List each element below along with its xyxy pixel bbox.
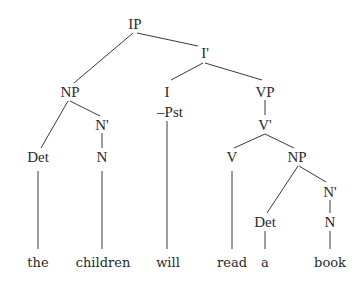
leaf-word: a bbox=[261, 256, 269, 269]
edge-ip-ibar bbox=[137, 33, 198, 46]
node-vp: VP bbox=[255, 85, 274, 100]
leaf-word: read bbox=[217, 256, 247, 269]
node-n-bar-object: N' bbox=[323, 185, 337, 200]
node-det-subject: Det bbox=[27, 150, 49, 165]
node-v-bar: V' bbox=[258, 118, 272, 133]
node-n-object: N bbox=[325, 215, 336, 230]
node-np-object: NP bbox=[287, 150, 306, 165]
edge-ip-np1 bbox=[74, 33, 133, 83]
node-v: V bbox=[227, 150, 238, 165]
edge-vbar-np2 bbox=[265, 134, 294, 148]
node-n-bar-subject: N' bbox=[95, 118, 109, 133]
leaf-word: children bbox=[76, 256, 131, 269]
node-tense-feature: –Pst bbox=[157, 105, 183, 120]
leaf-word: book bbox=[314, 256, 346, 269]
edge-np2-nbar2 bbox=[299, 166, 326, 182]
node-ip: IP bbox=[128, 17, 141, 32]
edge-vbar-v bbox=[234, 134, 265, 148]
node-n-subject: N bbox=[97, 150, 108, 165]
edge-np2-det2 bbox=[267, 166, 298, 213]
leaf-word: the bbox=[27, 256, 48, 269]
edge-ibar-vp bbox=[205, 63, 262, 80]
edge-ibar-i bbox=[171, 63, 203, 80]
tree-edges bbox=[0, 0, 364, 284]
syntax-tree-diagram: IP NP I' N' Det N I –Pst VP V' V NP N' D… bbox=[0, 0, 364, 284]
node-i: I bbox=[165, 85, 170, 100]
edge-np1-nbar1 bbox=[70, 101, 100, 116]
node-np-subject: NP bbox=[60, 85, 79, 100]
node-i-bar: I' bbox=[201, 46, 209, 61]
node-det-object: Det bbox=[254, 215, 276, 230]
leaf-word: will bbox=[156, 256, 180, 269]
edge-np1-det1 bbox=[41, 101, 68, 148]
